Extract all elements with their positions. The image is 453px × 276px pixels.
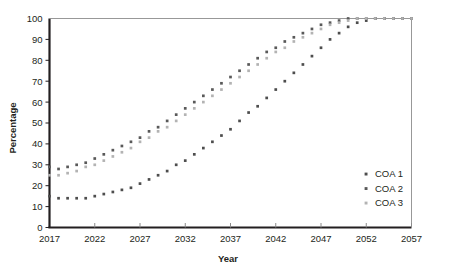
data-point <box>112 191 115 194</box>
data-point <box>311 32 314 35</box>
data-point <box>193 107 196 110</box>
data-point <box>57 174 60 177</box>
data-point <box>166 120 169 123</box>
legend-label: COA 1 <box>375 168 403 179</box>
legend-item: COA 3 <box>365 197 403 208</box>
data-point <box>256 57 259 60</box>
data-point <box>184 159 187 162</box>
data-point <box>175 113 178 116</box>
data-point <box>93 163 96 166</box>
x-tick-label: 2017 <box>39 233 60 244</box>
data-point <box>238 76 241 79</box>
data-point <box>374 17 377 20</box>
data-point <box>175 120 178 123</box>
data-point <box>338 21 341 24</box>
y-tick-label: 0 <box>37 222 42 233</box>
data-point <box>274 51 277 54</box>
data-point <box>293 36 296 39</box>
y-axis-ticks: 0102030405060708090100 <box>27 13 50 233</box>
x-axis-ticks: 201720222027203220372042204720522057 <box>39 223 422 244</box>
data-point <box>329 23 332 26</box>
data-point <box>139 182 142 185</box>
data-point <box>166 126 169 129</box>
data-point <box>229 76 232 79</box>
data-point <box>166 170 169 173</box>
y-tick-label: 10 <box>32 201 43 212</box>
chart-figure: 0102030405060708090100 20172022202720322… <box>0 0 453 276</box>
data-point <box>202 147 205 150</box>
data-point <box>320 46 323 49</box>
x-tick-label: 2042 <box>265 233 286 244</box>
data-point <box>365 17 368 20</box>
data-point <box>102 159 105 162</box>
data-point <box>57 168 60 171</box>
data-point <box>293 40 296 43</box>
data-point <box>238 120 241 123</box>
data-point <box>265 51 268 54</box>
data-point <box>57 197 60 200</box>
data-point <box>247 63 250 66</box>
data-point <box>265 97 268 100</box>
data-point <box>93 157 96 160</box>
chart-legend: COA 1COA 2COA 3 <box>365 168 403 208</box>
data-point <box>121 189 124 192</box>
data-point <box>75 197 78 200</box>
data-point <box>383 17 386 20</box>
data-point <box>193 153 196 156</box>
data-point <box>356 17 359 20</box>
data-point <box>347 26 350 29</box>
y-tick-label: 30 <box>32 159 43 170</box>
data-point <box>202 101 205 104</box>
data-point <box>356 21 359 24</box>
data-point <box>193 101 196 104</box>
data-point <box>121 145 124 148</box>
y-axis-title: Percentage <box>7 102 18 153</box>
data-point <box>157 174 160 177</box>
data-point <box>220 134 223 137</box>
y-tick-label: 90 <box>32 34 43 45</box>
data-point <box>302 63 305 66</box>
y-tick-label: 70 <box>32 76 43 87</box>
data-point <box>130 147 133 150</box>
series-coa-3 <box>48 17 413 176</box>
legend-marker <box>365 187 368 190</box>
series-coa-1 <box>48 17 413 199</box>
data-point <box>238 69 241 72</box>
legend-label: COA 3 <box>375 197 403 208</box>
data-series-layer <box>48 17 413 199</box>
x-tick-label: 2037 <box>220 233 241 244</box>
x-tick-label: 2027 <box>129 233 150 244</box>
data-point <box>338 32 341 35</box>
data-point <box>84 161 87 164</box>
data-point <box>283 40 286 43</box>
data-point <box>392 17 395 20</box>
data-point <box>84 197 87 200</box>
data-point <box>256 105 259 108</box>
data-point <box>48 195 51 198</box>
data-point <box>302 32 305 35</box>
legend-label: COA 2 <box>375 183 403 194</box>
data-point <box>320 28 323 31</box>
legend-item: COA 1 <box>365 168 403 179</box>
x-tick-label: 2052 <box>356 233 377 244</box>
data-point <box>139 140 142 143</box>
data-point <box>157 130 160 133</box>
data-point <box>112 155 115 158</box>
data-point <box>102 193 105 196</box>
data-point <box>220 82 223 85</box>
y-tick-label: 20 <box>32 180 43 191</box>
data-point <box>283 46 286 49</box>
scatter-chart: 0102030405060708090100 20172022202720322… <box>0 0 453 276</box>
data-point <box>211 94 214 97</box>
data-point <box>66 172 69 175</box>
data-point <box>48 174 51 177</box>
data-point <box>66 166 69 169</box>
data-point <box>347 19 350 22</box>
data-point <box>75 170 78 173</box>
data-point <box>148 178 151 181</box>
legend-marker <box>365 202 368 205</box>
data-point <box>311 55 314 58</box>
x-tick-label: 2047 <box>310 233 331 244</box>
data-point <box>184 113 187 116</box>
data-point <box>311 28 314 31</box>
